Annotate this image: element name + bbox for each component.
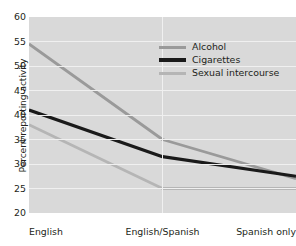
x-axis-ticks: EnglishEnglish/SpanishSpanish only: [0, 227, 296, 243]
legend-label: Alcohol: [192, 42, 226, 51]
y-axis-ticks: 202530354045505560: [0, 0, 26, 246]
legend-item[interactable]: Alcohol: [159, 41, 279, 53]
y-axis-tick-label: 25: [4, 184, 26, 193]
y-axis-tick-label: 35: [4, 135, 26, 144]
legend-label: Cigarettes: [192, 55, 240, 64]
chart-container: Percent reporting activity 2025303540455…: [0, 0, 296, 246]
x-axis-tick-label: Spanish only: [236, 227, 296, 236]
y-axis-tick-label: 30: [4, 159, 26, 168]
legend-swatch-icon: [159, 72, 186, 75]
legend-swatch-icon: [159, 58, 186, 62]
y-axis-tick-label: 60: [4, 12, 26, 21]
legend-item[interactable]: Sexual intercourse: [159, 67, 279, 79]
legend-label: Sexual intercourse: [192, 68, 279, 77]
legend-item[interactable]: Cigarettes: [159, 54, 279, 66]
x-axis-tick-label: English/Spanish: [125, 227, 199, 236]
y-axis-tick-label: 45: [4, 86, 26, 95]
x-axis-tick-label: English: [29, 227, 63, 236]
y-axis-tick-label: 20: [4, 208, 26, 217]
y-axis-tick-label: 50: [4, 61, 26, 70]
chart-legend: AlcoholCigarettesSexual intercourse: [159, 41, 279, 79]
y-axis-tick-label: 40: [4, 110, 26, 119]
y-axis-tick-label: 55: [4, 37, 26, 46]
legend-swatch-icon: [159, 46, 186, 49]
